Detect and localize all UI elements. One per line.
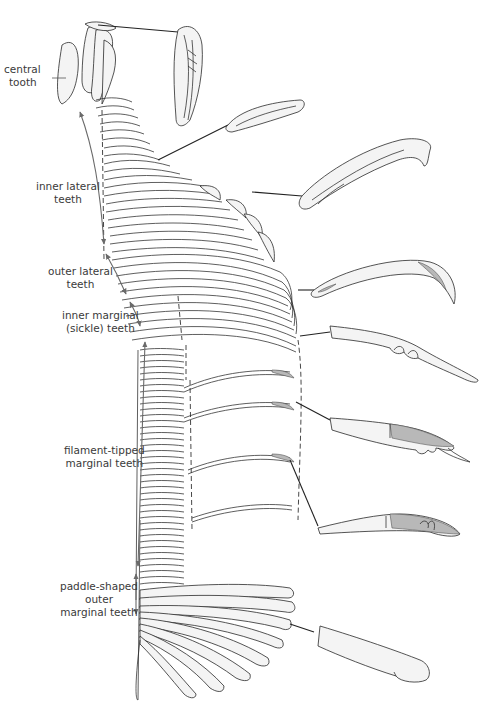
label-line: filament-tipped xyxy=(64,444,145,457)
paddle-shaped-outer-marginal-teeth xyxy=(136,520,295,700)
label-line: paddle-shaped xyxy=(60,580,138,593)
label-line: marginal teeth xyxy=(60,606,138,619)
label-line: (sickle) teeth xyxy=(62,322,139,335)
radula-diagram: central tooth inner lateral teeth outer … xyxy=(0,0,497,712)
label-line: outer xyxy=(60,593,138,606)
label-line: inner marginal xyxy=(62,309,139,322)
label-inner-marginal-teeth: inner marginal (sickle) teeth xyxy=(62,309,139,335)
enlarged-paddle-tooth xyxy=(318,626,429,682)
enlarged-lateral-tooth-1 xyxy=(226,100,304,132)
label-line: central xyxy=(4,63,41,76)
label-inner-lateral-teeth: inner lateral teeth xyxy=(36,180,100,206)
label-paddle-shaped-outer-marginal-teeth: paddle-shaped outer marginal teeth xyxy=(60,580,138,619)
enlarged-filament-tipped-tooth-1 xyxy=(330,418,470,462)
label-filament-tipped-marginal-teeth: filament-tipped marginal teeth xyxy=(64,444,145,470)
label-line: marginal teeth xyxy=(64,457,145,470)
enlarged-outer-lateral-tooth xyxy=(311,260,455,304)
label-line: inner lateral xyxy=(36,180,100,193)
enlarged-central-tooth xyxy=(174,26,202,125)
central-tooth-cluster xyxy=(58,22,117,104)
label-line: tooth xyxy=(4,76,41,89)
enlarged-inner-marginal-tooth xyxy=(330,326,478,382)
label-central-tooth: central tooth xyxy=(4,63,41,89)
label-line: teeth xyxy=(36,193,100,206)
enlarged-lateral-tooth-2 xyxy=(299,139,431,209)
label-line: teeth xyxy=(48,278,113,291)
label-line: outer lateral xyxy=(48,265,113,278)
label-outer-lateral-teeth: outer lateral teeth xyxy=(48,265,113,291)
filament-tipped-marginal-teeth xyxy=(136,345,294,600)
enlarged-filament-tipped-tooth-2 xyxy=(318,514,460,536)
outer-lateral-teeth xyxy=(112,254,297,352)
